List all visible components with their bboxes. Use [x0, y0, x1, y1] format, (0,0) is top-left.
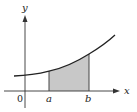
x-axis-arrow-icon [113, 89, 120, 94]
x-axis-label: x [124, 85, 130, 96]
y-axis-arrow-icon [23, 15, 28, 22]
upper-bound-label: b [85, 93, 91, 104]
origin-label: 0 [17, 93, 23, 104]
lower-bound-label: a [46, 93, 52, 104]
shaded-area [49, 54, 89, 91]
y-axis-label: y [21, 2, 28, 13]
area-under-curve-diagram: y x 0 a b [0, 0, 137, 112]
diagram-canvas: y x 0 a b [0, 0, 137, 112]
